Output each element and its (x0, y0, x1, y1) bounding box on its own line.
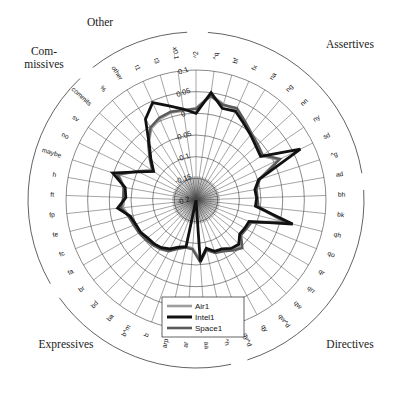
category-label-b^m: b^m (120, 323, 132, 338)
group-label-commissives: Com- (31, 45, 57, 57)
category-label-ar: ar (181, 341, 188, 348)
group-label-other: Other (87, 16, 113, 28)
category-label-qrr: qrr (306, 284, 318, 296)
category-label-qy: qy (259, 323, 270, 334)
group-label-commissives: missives (24, 58, 64, 70)
group-label-assertives: Assertives (326, 38, 374, 50)
category-label-ad: ad (335, 170, 344, 178)
series-lines (113, 93, 301, 263)
category-label-sv: sv (71, 113, 81, 123)
r-tick--0.15: -0.15 (174, 172, 193, 186)
category-label-qh: qh (333, 230, 342, 240)
category-label-nn: nn (299, 97, 309, 107)
radar-chart-canvas: ^2^qbffxnangnnnysd^gadbhbkqhqoqrqrrqwqw^… (0, 0, 393, 393)
group-arc-3 (28, 79, 80, 284)
category-label-maybe: maybe (41, 146, 63, 160)
category-label-^q: ^q (212, 52, 221, 60)
legend-label-Space1: Space1 (195, 324, 223, 333)
category-label-t1: t1 (133, 64, 142, 72)
legend: Air1Intel1Space1 (162, 297, 244, 337)
r-tick--0.1: -0.1 (176, 151, 191, 163)
category-label-other: other (110, 65, 124, 82)
category-label-no: no (61, 131, 71, 141)
category-label-t3: t3 (153, 57, 161, 65)
group-label-directives: Directives (326, 338, 374, 350)
category-label-bf: bf (231, 57, 239, 64)
category-label-commits: commits (70, 85, 93, 107)
category-label-bh: bh (338, 191, 346, 198)
category-label-qw^d: qw^d (276, 312, 292, 329)
category-label-na: na (268, 71, 278, 81)
category-label-sd: sd (322, 131, 332, 140)
category-label-fx: fx (250, 63, 259, 71)
category-label-ft: ft (50, 191, 54, 198)
group-arc-1 (247, 190, 364, 360)
category-label-^2: ^2 (192, 51, 199, 58)
category-label-qr: qr (317, 267, 327, 277)
radar-chart: ^2^qbffxnangnnnysd^gadbhbkqhqoqrqrrqwqw^… (0, 0, 393, 393)
legend-label-Air1: Air1 (195, 302, 210, 311)
category-label-qo: qo (326, 249, 336, 259)
category-label-fe: fe (52, 230, 59, 238)
legend-label-Intel1: Intel1 (195, 313, 215, 322)
category-label-bd: bd (89, 299, 99, 309)
category-label-br: br (77, 284, 87, 294)
category-label-bk: bk (337, 211, 345, 219)
category-label-^h: ^h (223, 338, 231, 346)
category-label-^g: ^g (330, 150, 339, 160)
category-label-qw: qw (292, 299, 304, 311)
category-label-h: h (52, 171, 57, 179)
category-label-aa: aa (203, 341, 211, 349)
category-label-ng: ng (284, 83, 295, 94)
category-label-fp: fp (49, 211, 56, 220)
category-label-ba: ba (105, 312, 115, 322)
category-label-x0.1: x0.1 (172, 46, 181, 60)
r-tick-0.1: 0.1 (177, 65, 190, 77)
category-label-b: b (142, 332, 150, 338)
category-label-fc: fc (58, 249, 66, 258)
r-tick--0.05: -0.05 (174, 129, 193, 143)
r-tick-0.05: 0.05 (175, 86, 191, 99)
category-label-ny: ny (311, 113, 322, 124)
category-label-fa: fa (66, 267, 75, 276)
group-label-expressives: Expressives (39, 338, 94, 351)
category-label-arp: arp (160, 338, 170, 349)
category-label-%: % (99, 84, 108, 93)
